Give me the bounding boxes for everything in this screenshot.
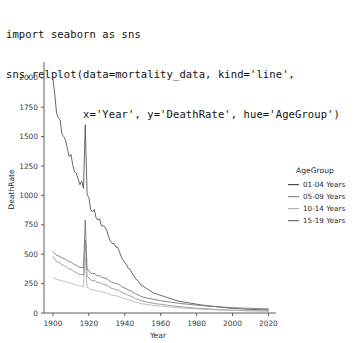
code-line-1: import seaborn as sns	[6, 28, 350, 41]
y-tick-label: 0	[33, 309, 38, 318]
relplot-figure: 0250500750100012501500175020001900192019…	[0, 48, 354, 343]
y-tick-label: 1500	[19, 132, 38, 141]
plot-area	[53, 79, 268, 311]
y-tick-label: 750	[24, 220, 38, 229]
y-tick-label: 1750	[19, 103, 38, 112]
series-line-0	[53, 79, 268, 310]
legend-label-1: 05-09 Years	[303, 192, 345, 201]
legend-label-2: 10-14 Years	[303, 204, 345, 213]
legend-label-3: 15-19 Years	[303, 216, 345, 225]
x-tick-label: 1980	[187, 319, 206, 328]
chart-legend: AgeGroup01-04 Years05-09 Years10-14 Year…	[288, 166, 345, 225]
series-line-2	[53, 258, 268, 311]
axes: 0250500750100012501500175020001900192019…	[7, 62, 278, 340]
x-tick-label: 1960	[151, 319, 170, 328]
x-tick-label: 1900	[44, 319, 63, 328]
y-axis-title: DeathRate	[7, 169, 16, 210]
y-tick-label: 250	[24, 279, 38, 288]
y-tick-label: 2000	[19, 73, 38, 82]
legend-title: AgeGroup	[296, 166, 334, 175]
x-axis-title: Year	[149, 331, 167, 340]
y-tick-label: 1000	[19, 191, 38, 200]
x-tick-label: 2000	[223, 319, 242, 328]
y-tick-label: 500	[24, 250, 38, 259]
axis-spines	[44, 62, 276, 313]
legend-label-0: 01-04 Years	[303, 180, 345, 189]
y-tick-label: 1250	[19, 162, 38, 171]
x-tick-label: 2020	[259, 319, 278, 328]
x-tick-label: 1940	[115, 319, 134, 328]
x-tick-label: 1920	[79, 319, 98, 328]
